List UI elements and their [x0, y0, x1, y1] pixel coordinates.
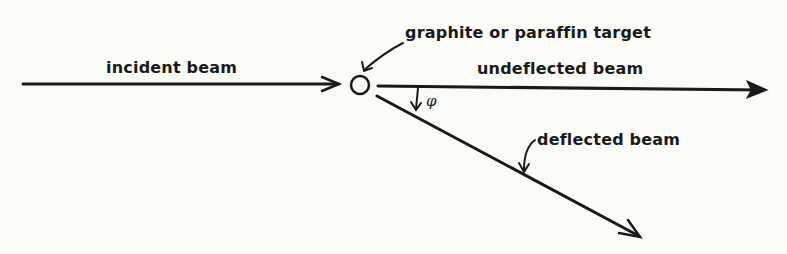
- undeflected-beam-arrowhead: [748, 82, 766, 97]
- deflected-beam-line: [377, 96, 639, 236]
- deflected-beam-label: deflected beam: [537, 130, 680, 149]
- undeflected-beam-label: undeflected beam: [477, 59, 643, 78]
- beam-diagram: [0, 0, 787, 254]
- deflected-pointer-arrow: [524, 140, 535, 170]
- incident-beam-label: incident beam: [106, 58, 237, 77]
- angle-phi-label: φ: [426, 92, 437, 110]
- target-pointer-arrow: [364, 43, 403, 70]
- undeflected-beam-line: [378, 86, 762, 90]
- target-label: graphite or paraffin target: [405, 23, 651, 42]
- target-circle: [351, 76, 369, 94]
- angle-phi-arrow: [416, 88, 418, 109]
